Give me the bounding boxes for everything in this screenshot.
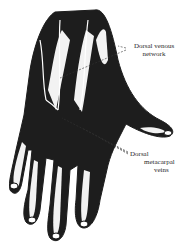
label-dorsal-venous-network: Dorsal venous network: [127, 42, 181, 58]
label-metacarpal-line1: Dorsal: [130, 150, 149, 158]
label-metacarpal-line2: metacarpal: [130, 158, 182, 166]
label-network-line1: Dorsal venous: [134, 42, 174, 50]
label-dorsal-metacarpal-veins: Dorsal metacarpal veins: [130, 150, 182, 174]
leader-line-network-1: [118, 46, 126, 48]
label-network-line2: network: [143, 50, 166, 58]
hand-vein-illustration: [0, 0, 182, 251]
label-metacarpal-line3: veins: [130, 166, 182, 174]
